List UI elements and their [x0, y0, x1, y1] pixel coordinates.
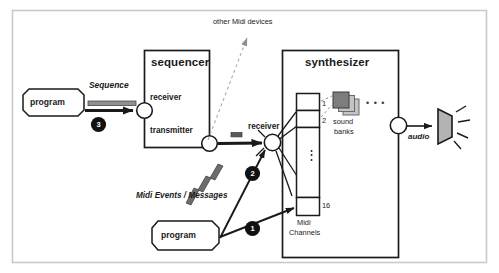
sequencer-transmitter-port — [202, 136, 218, 152]
step-badge-3-text: 3 — [96, 120, 100, 129]
sequencer-transmitter-label: transmitter — [150, 126, 193, 135]
sound-banks-ellipsis: • • • — [366, 98, 385, 108]
sound-bank-front — [333, 92, 349, 108]
sequence-label: Sequence — [89, 80, 129, 90]
sequencer-title: sequencer — [151, 56, 209, 68]
channel-number-16: 16 — [322, 201, 330, 210]
transmitter-to-receiver-arrow — [218, 143, 262, 144]
synthesizer-receiver-port — [264, 134, 280, 150]
midi-events-label: Midi Events / Messages — [136, 191, 227, 200]
program-bottom-label: program — [161, 230, 196, 240]
diagram-canvas: 3 2 1 sequencer synthesizer receiver tra… — [0, 0, 499, 273]
sound-banks-label-line2: banks — [334, 127, 354, 136]
sequence-data-bar — [88, 101, 136, 106]
sound-banks-label-line1: sound — [333, 117, 353, 126]
sequencer-receiver-port — [137, 103, 153, 119]
other-midi-devices-label: other Midi devices — [213, 17, 273, 26]
step-badge-1-text: 1 — [250, 224, 254, 233]
synthesizer-title: synthesizer — [305, 56, 369, 68]
sequencer-receiver-label: receiver — [150, 93, 181, 102]
synthesizer-audio-port — [390, 117, 406, 133]
midi-channels-label-line2: Channels — [289, 228, 320, 237]
audio-label: audio — [408, 132, 429, 141]
midi-channels-label-line1: Midi — [297, 218, 311, 227]
step-badge-2-text: 2 — [250, 169, 254, 178]
synthesizer-receiver-label: receiver — [248, 122, 279, 131]
channel-ellipsis: ⋮ — [305, 148, 318, 161]
transmitter-message-marker — [231, 133, 242, 137]
channel-number-1: 1 — [322, 99, 326, 108]
program-top-label: program — [30, 97, 65, 107]
speaker-icon — [438, 109, 452, 144]
channel-number-2: 2 — [322, 116, 326, 125]
